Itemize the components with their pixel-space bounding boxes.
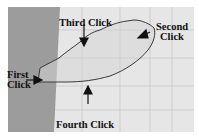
- third-click-text: Third Click: [59, 17, 112, 28]
- second-click-label: Second Click: [156, 22, 188, 42]
- fourth-click-label: Fourth Click: [56, 120, 114, 130]
- third-click-label: Third Click: [59, 18, 112, 28]
- second-click-line2: Click: [160, 32, 188, 42]
- diagram-canvas: Third Click Second Click First Click Fou…: [0, 0, 199, 140]
- fourth-click-text: Fourth Click: [56, 119, 114, 130]
- first-click-label: First Click: [7, 70, 31, 90]
- first-click-line2: Click: [7, 80, 31, 90]
